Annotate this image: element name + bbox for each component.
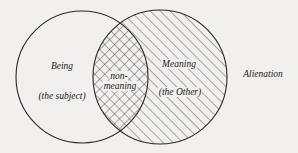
alienation-title: Alienation (243, 69, 283, 79)
subject-label: (the subject) (38, 91, 85, 101)
meaning-label: Meaning (161, 59, 197, 69)
non-label: non- (109, 71, 128, 81)
meaning-intersection-label: meaning (103, 81, 138, 91)
other-label: (the Other) (158, 87, 202, 97)
being-label: Being (51, 61, 73, 71)
venn-diagram: Being (the subject) non- meaning Meaning… (0, 0, 298, 153)
